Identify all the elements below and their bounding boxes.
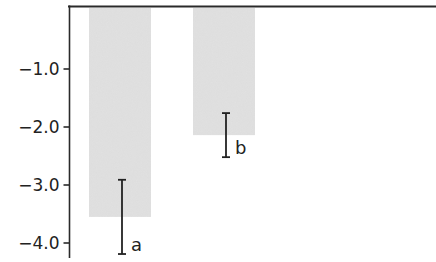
y-tick-label: −2.0 <box>18 117 59 137</box>
y-tick-label: −3.0 <box>18 175 59 195</box>
significance-label-b: b <box>235 137 246 158</box>
bar-b <box>193 8 255 135</box>
y-tick-label: −1.0 <box>18 59 59 79</box>
y-tick-label: −4.0 <box>18 233 59 253</box>
bars <box>89 8 255 217</box>
significance-label-a: a <box>131 234 142 255</box>
bar-chart: −1.0−2.0−3.0−4.0 ab <box>0 0 436 262</box>
y-axis-ticks: −1.0−2.0−3.0−4.0 <box>18 59 69 253</box>
bar-a <box>89 8 151 217</box>
